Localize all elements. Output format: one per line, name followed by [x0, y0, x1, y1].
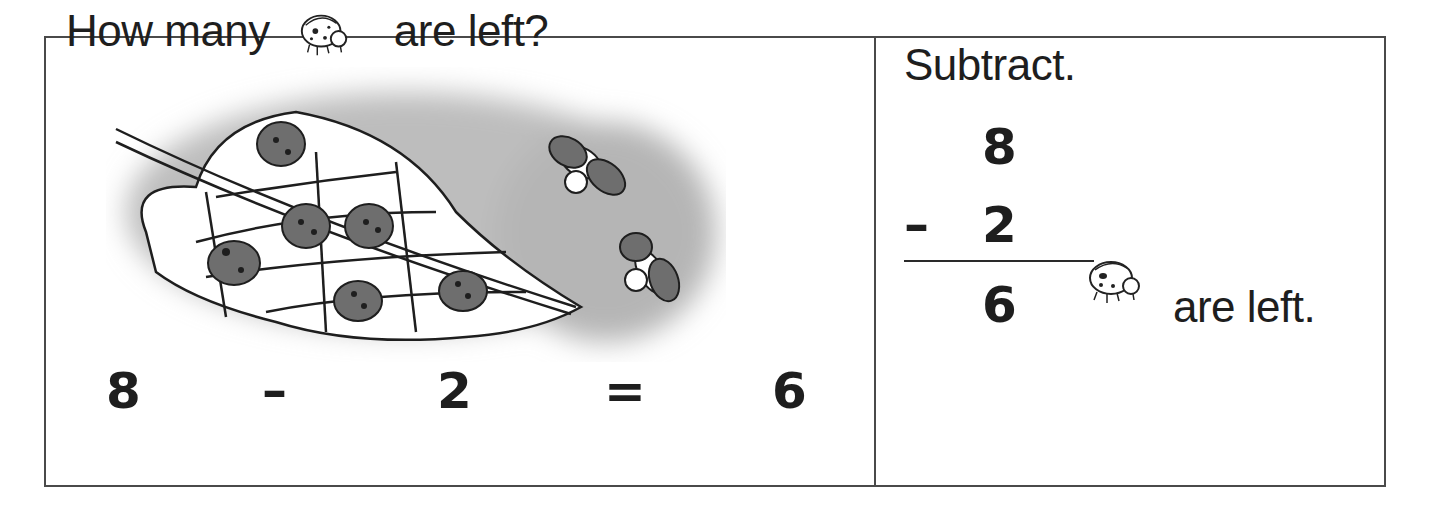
sum-line — [904, 260, 1094, 262]
equation-minus: – — [262, 362, 287, 420]
question-text-end: are left? — [394, 6, 548, 55]
vertical-operator: – — [904, 196, 929, 254]
equation-equals: = — [604, 362, 646, 420]
vertical-answer: 6 — [982, 276, 1017, 334]
ladybug-icon — [1085, 250, 1147, 310]
ladybug-leaf-illustration — [106, 62, 726, 362]
vertical-bottom-number: 2 — [982, 196, 1017, 254]
ladybug-icon — [296, 4, 354, 62]
equation-result: 6 — [772, 362, 807, 420]
panel-divider — [874, 38, 876, 485]
subtract-title: Subtract. — [904, 40, 1076, 90]
equation-subtrahend: 2 — [437, 362, 472, 420]
answer-text: are left. — [1173, 282, 1315, 332]
question-text-start: How many — [66, 6, 270, 55]
equation-minuend: 8 — [106, 362, 141, 420]
question-title: How many are left? — [66, 4, 548, 62]
vertical-top-number: 8 — [982, 118, 1017, 176]
